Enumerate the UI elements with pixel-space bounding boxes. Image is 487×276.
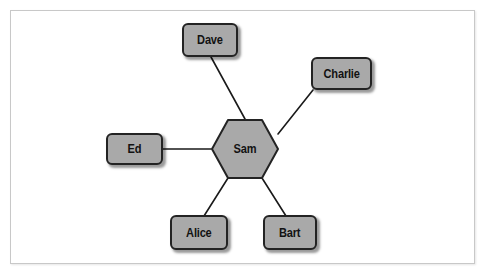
edge-sam-charlie	[278, 90, 313, 134]
edge-sam-dave	[211, 57, 245, 119]
network-diagram-canvas: Dave Charlie Ed Alice Bart Sam	[0, 0, 487, 276]
node-label-ed: Ed	[128, 142, 142, 156]
edge-sam-bart	[262, 178, 286, 216]
node-label-alice: Alice	[186, 226, 211, 240]
node-label-dave: Dave	[197, 33, 223, 47]
node-dave[interactable]: Dave	[182, 23, 238, 57]
node-label-bart: Bart	[279, 226, 300, 240]
diagram-screenshot: Dave Charlie Ed Alice Bart Sam	[0, 0, 487, 276]
hexagon-icon	[211, 119, 279, 179]
node-charlie[interactable]: Charlie	[311, 57, 372, 90]
node-label-charlie: Charlie	[323, 67, 359, 81]
edge-sam-alice	[204, 178, 228, 216]
node-ed[interactable]: Ed	[106, 133, 163, 165]
node-sam-hub[interactable]: Sam	[211, 119, 279, 179]
node-bart[interactable]: Bart	[263, 215, 317, 250]
node-alice[interactable]: Alice	[170, 215, 228, 250]
